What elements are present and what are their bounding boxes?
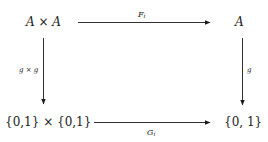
- node-top-left-label: A × A: [26, 15, 61, 29]
- node-top-left: A × A: [26, 15, 61, 29]
- node-top-right: A: [235, 15, 244, 29]
- node-bottom-right-label: {0, 1}: [224, 115, 262, 129]
- label-right-arrow: g: [247, 66, 251, 75]
- label-bottom-arrow: Gi: [147, 128, 155, 138]
- label-right-arrow-text: g: [247, 66, 251, 74]
- label-left-arrow: g × g: [19, 66, 38, 75]
- node-bottom-left-label: {0,1} × {0,1}: [5, 115, 91, 129]
- label-top-arrow-sub: i: [144, 12, 146, 19]
- label-bottom-arrow-sub: i: [153, 130, 155, 137]
- label-left-arrow-text: g × g: [19, 66, 38, 74]
- node-bottom-right: {0, 1}: [224, 115, 262, 129]
- node-top-right-label: A: [235, 15, 244, 29]
- label-top-arrow: Fi: [138, 10, 145, 20]
- node-bottom-left: {0,1} × {0,1}: [5, 115, 91, 129]
